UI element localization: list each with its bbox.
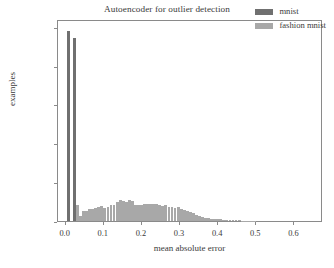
- y-axis: examples 010002000300040005000: [0, 0, 57, 222]
- bar: [67, 31, 70, 221]
- x-tick-label: 0.3: [159, 229, 199, 238]
- x-axis-label: mean absolute error: [57, 243, 322, 253]
- bar: [253, 221, 256, 222]
- x-tick-label: 0.5: [235, 229, 275, 238]
- x-tick-mark: [65, 222, 66, 225]
- chart-legend: mnistfashion mnist: [255, 6, 326, 34]
- bar-series-container: [58, 21, 321, 221]
- legend-label: fashion mnist: [279, 20, 326, 31]
- chart-figure: Autoencoder for outlier detection exampl…: [0, 0, 334, 268]
- bar: [73, 38, 76, 221]
- x-tick-label: 0.2: [121, 229, 161, 238]
- x-tick-mark: [217, 222, 218, 225]
- legend-item: mnist: [255, 6, 326, 17]
- x-axis: mean absolute error 0.00.10.20.30.40.50.…: [0, 222, 334, 268]
- x-tick-label: 0.4: [197, 229, 237, 238]
- x-tick-label: 0.0: [45, 229, 85, 238]
- y-axis-label: examples: [7, 49, 17, 129]
- x-tick-mark: [179, 222, 180, 225]
- x-tick-mark: [103, 222, 104, 225]
- x-tick-label: 0.1: [83, 229, 123, 238]
- x-tick-mark: [293, 222, 294, 225]
- x-tick-label: 0.6: [273, 229, 313, 238]
- legend-swatch-icon: [255, 9, 273, 15]
- x-tick-mark: [255, 222, 256, 225]
- x-tick-mark: [141, 222, 142, 225]
- plot-area: [57, 20, 322, 222]
- legend-label: mnist: [279, 6, 298, 17]
- legend-swatch-icon: [255, 23, 273, 29]
- legend-item: fashion mnist: [255, 20, 326, 31]
